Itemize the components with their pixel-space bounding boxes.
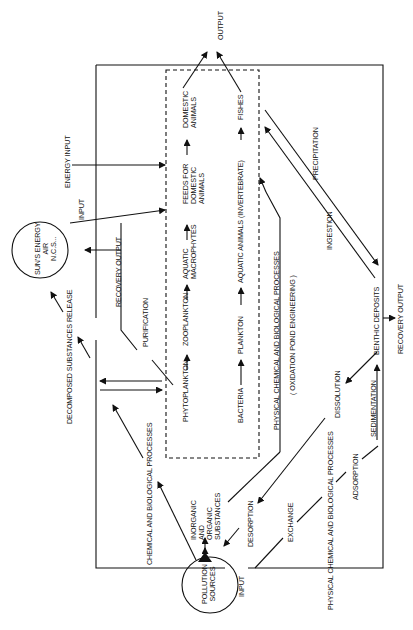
feeds-for-domestic-animals-label: FEEDS FOR DOMESTIC ANIMALS	[182, 164, 206, 204]
bacteria-label: BACTERIA	[237, 388, 245, 423]
recovery-output-right-label: RECOVERY OUTPUT	[397, 284, 405, 354]
phys-chem-bio-inner-label: PHYSICAL CHEMICAL AND BIOLOGICAL PROCESS…	[273, 251, 281, 430]
phytoplankton-label: PHYTOPLANKTON	[182, 360, 190, 422]
input-lower-label: INPUT	[238, 576, 246, 597]
purification-label: PURIFICATION	[142, 298, 150, 347]
oxidation-pond-label: ( OXIDATION POND ENGINEERING )	[289, 275, 297, 395]
phys-chem-bio-bottom-label: PHYSICAL CHEMICAL AND BIOLOGICAL PROCESS…	[327, 431, 335, 610]
desorption-label: DESORPTION	[247, 500, 255, 547]
fishes-label: FISHES	[237, 95, 245, 120]
recovery-output-left-label: RECOVERY OUTPUT	[115, 237, 123, 307]
domestic-animals-label: DOMESTIC ANIMALS	[182, 91, 198, 128]
energy-input-label: ENERGY INPUT	[64, 135, 72, 188]
aquatic-macrophytes-label: AQUATIC MACROPHYTES	[182, 225, 198, 279]
inorganic-organic-label: INORGANIC AND ORGANIC SUBSTANCES	[190, 493, 222, 540]
chem-bio-left-label: CHEMICAL AND BIOLOGICAL PROCESSES	[146, 423, 154, 565]
sedimentation-label: SEDIMENTATION	[370, 380, 378, 437]
zooplankton-label: ZOOPLANKTON	[182, 293, 190, 346]
plankton-label: PLANKTON	[237, 316, 245, 354]
aquatic-animals-label: AQUATIC ANIMALS (INVERTEBRATE)	[237, 160, 245, 283]
inner-dashed-boundary	[166, 70, 259, 458]
pollution-sources-label: POLLUTION SOURCES	[201, 564, 217, 604]
ingestion-label: INGESTION	[326, 211, 334, 250]
suns-energy-label: SUN'S ENERGY AIR N.C.S...	[34, 223, 58, 276]
benthic-deposits-label: BENTHIC DEPOSITS	[373, 287, 381, 355]
dissolution-label: DISSOLUTION	[334, 370, 342, 418]
precipitation-label: PRECIPITATION	[312, 127, 320, 180]
exchange-label: EXCHANGE	[287, 502, 295, 542]
adsorption-label: ADSORPTION	[352, 453, 360, 500]
output-label: OUTPUT	[217, 11, 225, 40]
input-upper-label: INPUT	[78, 199, 86, 220]
decomposed-release-label: DECOMPOSED SUBSTANCES RELEASE	[66, 290, 74, 424]
